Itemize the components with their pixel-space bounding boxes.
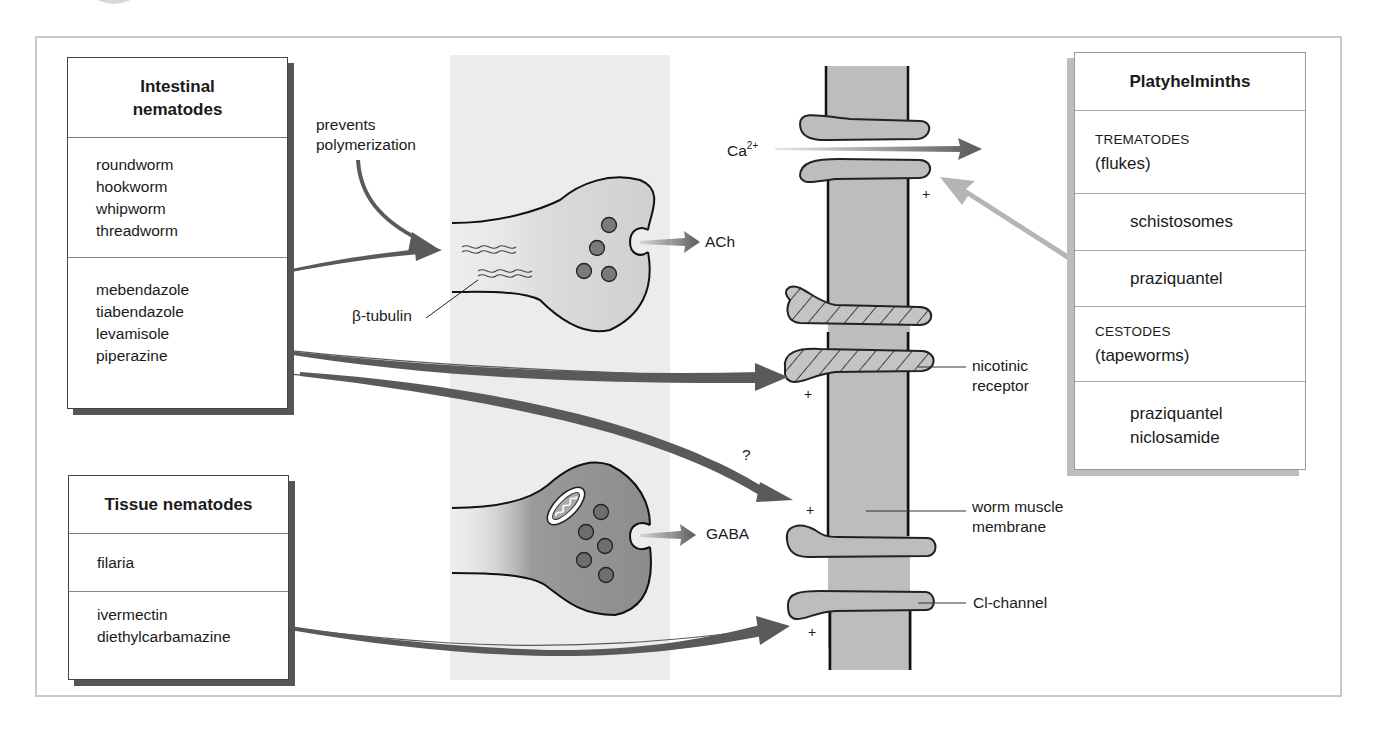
drug-item: praziquantel <box>1130 402 1305 426</box>
plus-sign: + <box>922 184 930 204</box>
cl-channel-label: Cl-channel <box>973 593 1047 613</box>
vesicle <box>577 553 592 568</box>
trematode-organisms: schistosomes <box>1075 194 1305 251</box>
prevents-polymerization-label: prevents polymerization <box>316 115 416 155</box>
gabaergic-neuron-terminal <box>452 462 651 615</box>
trematode-drugs: praziquantel <box>1075 251 1305 307</box>
cholinergic-neuron-terminal <box>426 177 654 331</box>
label-line: prevents <box>316 115 416 135</box>
gaba-release-arrow <box>640 524 696 546</box>
tissue-nematodes-box: Tissue nematodes filaria ivermectin diet… <box>68 475 289 680</box>
ach-release-arrow <box>640 231 700 253</box>
vesicle <box>577 264 592 279</box>
organism-item: hookworm <box>96 176 287 198</box>
cestode-drugs: praziquantel niclosamide <box>1075 382 1305 469</box>
class-label: CESTODES <box>1095 320 1305 344</box>
plus-sign: + <box>808 622 816 642</box>
tissue-drugs-list: ivermectin diethylcarbamazine <box>69 592 288 678</box>
intestinal-drugs-list: mebendazole tiabendazole levamisole pipe… <box>68 258 287 407</box>
drug-item: levamisole <box>96 323 287 345</box>
platyhelminths-box: Platyhelminths TREMATODES (flukes) schis… <box>1074 52 1306 470</box>
organism-item: whipworm <box>96 198 287 220</box>
class-label: TREMATODES <box>1095 128 1305 152</box>
drug-item: piperazine <box>96 345 287 367</box>
drug-item: diethylcarbamazine <box>97 626 288 648</box>
nicotinic-receptor-label: nicotinic receptor <box>972 356 1029 396</box>
worm-muscle-membrane-label: worm muscle membrane <box>972 497 1063 537</box>
calcium-ion-label: Ca2+ <box>727 136 758 161</box>
question-mark-label: ? <box>742 445 751 465</box>
gaba-label: GABA <box>706 524 749 544</box>
organism-item: roundworm <box>96 154 287 176</box>
ion-symbol: Ca <box>727 142 747 159</box>
platyhelminths-header: Platyhelminths <box>1075 53 1305 111</box>
drug-item: tiabendazole <box>96 301 287 323</box>
vesicle <box>599 568 614 583</box>
drug-item: niclosamide <box>1130 426 1305 450</box>
box-title: Tissue nematodes <box>104 493 252 516</box>
box-title: Platyhelminths <box>1130 70 1251 93</box>
calcium-channel-lower <box>800 159 930 182</box>
label-line: receptor <box>972 376 1029 396</box>
ach-label: ACh <box>705 232 735 252</box>
organism-item: filaria <box>97 552 288 574</box>
beta-tubulin-label: β-tubulin <box>352 306 412 326</box>
tissue-organisms-list: filaria <box>69 534 288 592</box>
label-line: nicotinic <box>972 356 1029 376</box>
calcium-influx-arrow <box>775 138 982 160</box>
vesicle <box>590 241 605 256</box>
trematodes-class: TREMATODES (flukes) <box>1075 111 1305 194</box>
drug-item: mebendazole <box>96 279 287 301</box>
organism-item: threadworm <box>96 220 287 242</box>
vesicle <box>602 267 617 282</box>
vesicle <box>598 539 613 554</box>
organism-item: schistosomes <box>1130 210 1305 234</box>
vesicle <box>602 218 617 233</box>
cestodes-class: CESTODES (tapeworms) <box>1075 307 1305 382</box>
intestinal-organisms-list: roundworm hookworm whipworm threadworm <box>68 138 287 258</box>
vesicle <box>594 505 609 520</box>
calcium-channel-upper <box>800 115 929 140</box>
vesicle <box>579 525 594 540</box>
intestinal-nematodes-header: Intestinal nematodes <box>68 58 287 138</box>
label-line: polymerization <box>316 135 416 155</box>
label-line: worm muscle <box>972 497 1063 517</box>
intestinal-nematodes-box: Intestinal nematodes roundworm hookworm … <box>67 57 288 409</box>
plus-sign: + <box>806 500 814 520</box>
plus-sign: + <box>804 384 812 404</box>
common-name: (flukes) <box>1095 152 1305 176</box>
box-title: nematodes <box>133 98 223 121</box>
tissue-nematodes-header: Tissue nematodes <box>69 476 288 534</box>
prevents-polymerization-arrow <box>358 160 420 240</box>
drug-item: praziquantel <box>1130 267 1305 291</box>
label-line: membrane <box>972 517 1063 537</box>
ion-charge: 2+ <box>747 140 758 151</box>
box-title: Intestinal <box>140 75 215 98</box>
common-name: (tapeworms) <box>1095 344 1305 368</box>
diagram-canvas: Intestinal nematodes roundworm hookworm … <box>0 0 1385 737</box>
drug-item: ivermectin <box>97 604 288 626</box>
